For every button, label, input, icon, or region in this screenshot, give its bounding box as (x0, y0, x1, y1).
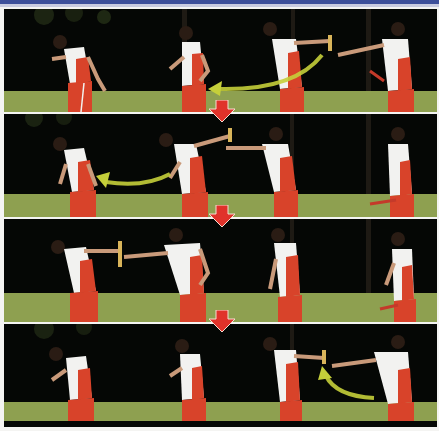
down-arrow-icon (208, 205, 236, 227)
tree-trunk (366, 9, 371, 94)
sequence-panel-3 (4, 219, 437, 322)
baton (228, 128, 232, 142)
figure-caption (0, 421, 439, 431)
down-arrow-icon (208, 100, 236, 122)
sequence-panel-1 (4, 9, 437, 112)
baton (328, 35, 332, 51)
header-bar-shadow (0, 4, 439, 7)
sequence-panel-2 (4, 114, 437, 217)
sequence-panel-4 (4, 324, 437, 427)
down-arrow-icon (208, 310, 236, 332)
baton (322, 350, 326, 364)
baton (118, 241, 122, 267)
